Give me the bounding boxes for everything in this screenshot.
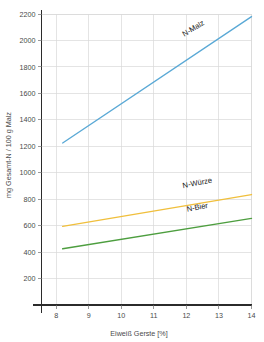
y-axis-tick-label: 1800	[20, 63, 36, 72]
x-axis-tick-label: 8	[54, 311, 58, 320]
y-axis-tick-label: 1400	[20, 115, 36, 124]
x-axis-title: Eiweiß Gerste [%]	[110, 329, 168, 338]
y-axis-tick-label: 2200	[20, 10, 36, 19]
y-axis-tick-label: 400	[24, 248, 36, 257]
y-axis-title: mg Gesamt-N / 100 g Malz	[4, 112, 13, 198]
y-axis-tick-label: 1000	[20, 168, 36, 177]
y-axis-tick-label: 600	[24, 221, 36, 230]
y-axis-tick-label: 2000	[20, 36, 36, 45]
x-axis-tick-label: 10	[117, 311, 125, 320]
x-axis-tick-label: 9	[87, 311, 91, 320]
x-axis-tick-label: 11	[150, 311, 157, 320]
y-axis-tick-label: 1200	[20, 142, 36, 151]
x-axis-tick-label: 12	[182, 311, 190, 320]
chart-container: 2004006008001000120014001600180020002200…	[0, 0, 264, 342]
x-axis-tick-label: 14	[248, 311, 256, 320]
y-axis-tick-label: 200	[24, 274, 36, 283]
line-chart: 2004006008001000120014001600180020002200…	[0, 0, 264, 342]
chart-background	[0, 0, 264, 342]
x-axis-tick-label: 13	[215, 311, 223, 320]
y-axis-tick-label: 1600	[20, 89, 36, 98]
y-axis-tick-label: 800	[24, 195, 36, 204]
